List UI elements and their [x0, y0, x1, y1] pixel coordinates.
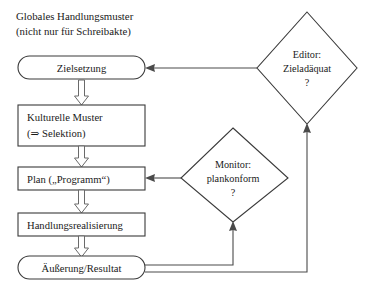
node-kulturelle-muster-label-line-2: (⇒ Selektion)	[27, 128, 86, 140]
node-kulturelle-muster-label-line-1: Kulturelle Muster	[27, 112, 103, 123]
block-arrow-plan-to-handlungsrealisierung	[75, 190, 89, 213]
node-aeusserung-resultat-label: Äußerung/Resultat	[41, 263, 121, 274]
node-plan-label: Plan („Programm“)	[27, 174, 110, 186]
flowchart-canvas: Globales Handlungsmuster (nicht nur für …	[0, 0, 368, 294]
decision-editor-label-line-2: Zieladäquat	[283, 63, 331, 74]
arrowhead-aeusserung-to-monitor	[229, 221, 237, 231]
block-arrow-zielsetzung-to-kulturelle-muster	[75, 80, 89, 105]
flowchart-diagram: Globales Handlungsmuster (nicht nur für …	[0, 0, 368, 294]
connector-aeusserung-to-monitor	[145, 229, 233, 265]
block-arrow-handlungsrealisierung-to-aeusserung	[75, 236, 89, 257]
decision-editor-label-line-1: Editor:	[293, 49, 321, 60]
node-handlungsrealisierung-label: Handlungsrealisierung	[27, 220, 124, 231]
node-zielsetzung-label: Zielsetzung	[57, 63, 107, 74]
decision-monitor-label-line-3: ?	[231, 187, 236, 198]
decision-monitor-label-line-1: Monitor:	[215, 159, 251, 170]
decision-monitor-label-line-2: plankonform	[207, 173, 260, 184]
decision-editor-label-line-3: ?	[305, 77, 310, 88]
block-arrow-kulturelle-muster-to-plan	[75, 146, 89, 167]
diagram-title-line-2: (nicht nur für Schreibakte)	[16, 25, 131, 38]
diagram-title-line-1: Globales Handlungsmuster	[16, 10, 134, 22]
arrowhead-aeusserung-to-editor	[303, 123, 311, 133]
arrowhead-editor-to-zielsetzung	[145, 64, 155, 72]
arrowhead-monitor-to-plan	[145, 174, 155, 182]
